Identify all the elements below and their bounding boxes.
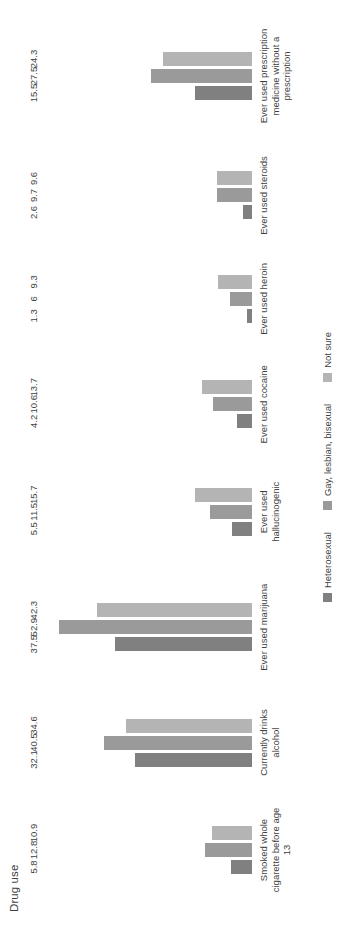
bar-slot: 9.7 bbox=[40, 188, 252, 202]
bar[interactable] bbox=[213, 397, 252, 411]
bar-group: 1.369.3 bbox=[40, 253, 252, 345]
legend-item[interactable]: Gay, lesbian, bisexual bbox=[322, 404, 333, 510]
bar-slot: 10.6 bbox=[40, 397, 252, 411]
bar-group: 4.210.613.7 bbox=[40, 356, 252, 452]
drug-use-chart-figure: Drug use 5.812.810.932.140.534.637.552.9… bbox=[0, 0, 350, 934]
bar-group: 32.140.534.6 bbox=[40, 695, 252, 791]
legend-item[interactable]: Not sure bbox=[322, 332, 333, 382]
legend-label: Gay, lesbian, bisexual bbox=[322, 404, 333, 496]
bar[interactable] bbox=[218, 275, 252, 289]
bar-value-label: 15.5 bbox=[29, 84, 39, 103]
bar[interactable] bbox=[230, 292, 252, 306]
bar-slot: 24.3 bbox=[40, 52, 252, 66]
bar-group: 5.812.810.9 bbox=[40, 802, 252, 898]
bar[interactable] bbox=[195, 86, 252, 100]
bar-slot: 52.9 bbox=[40, 620, 252, 634]
category-label: Ever used marijuana bbox=[254, 571, 270, 683]
chart-title: Drug use bbox=[8, 865, 20, 912]
legend-swatch-icon bbox=[323, 501, 332, 510]
bar-slot: 10.9 bbox=[40, 826, 252, 840]
legend-swatch-icon bbox=[323, 373, 332, 382]
bar-value-label: 9.3 bbox=[29, 275, 39, 288]
bar[interactable] bbox=[151, 69, 252, 83]
bar-value-label: 5.5 bbox=[29, 522, 39, 535]
bar-value-label: 32.1 bbox=[29, 750, 39, 769]
bar-value-label: 42.3 bbox=[29, 601, 39, 620]
bar-slot: 27.5 bbox=[40, 69, 252, 83]
category-label: Ever used heroin bbox=[254, 253, 270, 345]
bar[interactable] bbox=[163, 52, 252, 66]
bar[interactable] bbox=[247, 309, 252, 323]
bar[interactable] bbox=[232, 522, 252, 536]
bar-slot: 34.6 bbox=[40, 719, 252, 733]
bar-value-label: 34.6 bbox=[29, 716, 39, 735]
bar-slot: 9.3 bbox=[40, 275, 252, 289]
bar-slot: 13.7 bbox=[40, 380, 252, 394]
bar-value-label: 4.2 bbox=[29, 415, 39, 428]
bar-value-label: 27.5 bbox=[29, 67, 39, 86]
bar-value-label: 12.8 bbox=[29, 841, 39, 860]
bar-value-label: 37.5 bbox=[29, 635, 39, 654]
bar[interactable] bbox=[231, 860, 252, 874]
category-axis: Smoked whole cigarette before age 13Curr… bbox=[254, 10, 316, 904]
bar-value-label: 40.5 bbox=[29, 733, 39, 752]
bar-value-label: 9.6 bbox=[29, 172, 39, 185]
bar-group: 37.552.942.3 bbox=[40, 571, 252, 683]
category-label: Ever used cocaine bbox=[254, 356, 270, 452]
bar-group: 5.511.515.7 bbox=[40, 464, 252, 560]
category-label: Currently drinks alcohol bbox=[254, 695, 281, 791]
bar-value-label: 6 bbox=[29, 296, 39, 301]
bar[interactable] bbox=[217, 188, 252, 202]
bar-slot: 40.5 bbox=[40, 736, 252, 750]
bar[interactable] bbox=[59, 620, 252, 634]
bar-slot: 5.5 bbox=[40, 522, 252, 536]
legend-label: Not sure bbox=[322, 332, 333, 368]
bar[interactable] bbox=[202, 380, 252, 394]
bar[interactable] bbox=[115, 637, 252, 651]
bar-value-label: 11.5 bbox=[29, 503, 39, 521]
bar-group: 15.527.524.3 bbox=[40, 14, 252, 138]
bar[interactable] bbox=[217, 171, 252, 185]
category-label: Ever used hallucinogenic bbox=[254, 464, 281, 560]
legend-swatch-icon bbox=[323, 593, 332, 602]
bar-slot: 37.5 bbox=[40, 637, 252, 651]
bar-value-label: 10.6 bbox=[29, 395, 39, 414]
bar-value-label: 13.7 bbox=[29, 378, 39, 397]
bar-slot: 6 bbox=[40, 292, 252, 306]
bar-slot: 12.8 bbox=[40, 843, 252, 857]
bar[interactable] bbox=[126, 719, 252, 733]
bar[interactable] bbox=[135, 753, 252, 767]
bar-value-label: 15.7 bbox=[29, 485, 39, 504]
chart-legend: HeterosexualGay, lesbian, bisexualNot su… bbox=[322, 0, 333, 934]
bar[interactable] bbox=[212, 826, 252, 840]
bar[interactable] bbox=[237, 414, 252, 428]
legend-item[interactable]: Heterosexual bbox=[322, 532, 333, 602]
bar-slot: 5.8 bbox=[40, 860, 252, 874]
bar[interactable] bbox=[195, 488, 252, 502]
legend-label: Heterosexual bbox=[322, 532, 333, 588]
bar-slot: 42.3 bbox=[40, 603, 252, 617]
plot-area: 5.812.810.932.140.534.637.552.942.35.511… bbox=[40, 10, 252, 904]
category-label: Ever used prescription medicine without … bbox=[254, 14, 293, 138]
bar-slot: 32.1 bbox=[40, 753, 252, 767]
bar-slot: 15.7 bbox=[40, 488, 252, 502]
bar-value-label: 9.7 bbox=[29, 189, 39, 202]
bar[interactable] bbox=[243, 205, 253, 219]
bar-slot: 1.3 bbox=[40, 309, 252, 323]
bar-slot: 11.5 bbox=[40, 505, 252, 519]
category-label: Ever used steroids bbox=[254, 149, 270, 241]
bar[interactable] bbox=[210, 505, 252, 519]
category-label: Smoked whole cigarette before age 13 bbox=[254, 802, 293, 898]
bar-slot: 2.6 bbox=[40, 205, 252, 219]
bar[interactable] bbox=[104, 736, 252, 750]
bar-slot: 4.2 bbox=[40, 414, 252, 428]
bar-group: 2.69.79.6 bbox=[40, 149, 252, 241]
bar-value-label: 52.9 bbox=[29, 618, 39, 637]
bar-value-label: 5.8 bbox=[29, 860, 39, 873]
bar-slot: 9.6 bbox=[40, 171, 252, 185]
bar[interactable] bbox=[97, 603, 252, 617]
bar-groups: 5.812.810.932.140.534.637.552.942.35.511… bbox=[40, 10, 252, 904]
bar-value-label: 24.3 bbox=[29, 50, 39, 69]
bar[interactable] bbox=[205, 843, 252, 857]
bar-value-label: 2.6 bbox=[29, 206, 39, 219]
